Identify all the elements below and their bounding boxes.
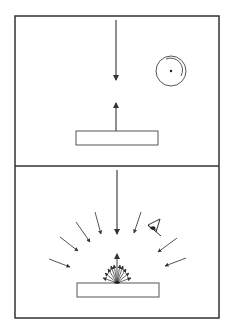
eye-viewer-icon [156, 56, 186, 86]
incoming-ray-arrow [95, 212, 101, 234]
eye-icon [148, 219, 161, 236]
incoming-ray-arrow [76, 222, 90, 242]
scattered-ray-arrows [103, 254, 131, 283]
incoming-ray-arrow [134, 212, 141, 233]
incoming-ray-arrow [60, 237, 78, 251]
diffuse-reflection-panel [49, 170, 186, 297]
mirror-surface [76, 131, 158, 145]
incoming-ray-arrow [165, 258, 186, 266]
incoming-ray-arrow [49, 259, 70, 267]
scatter-point [114, 281, 120, 284]
rough-surface [77, 283, 159, 297]
incoming-ray-arrow [158, 238, 177, 252]
specular-reflection-panel [76, 20, 186, 145]
reflection-diagram [0, 0, 230, 330]
